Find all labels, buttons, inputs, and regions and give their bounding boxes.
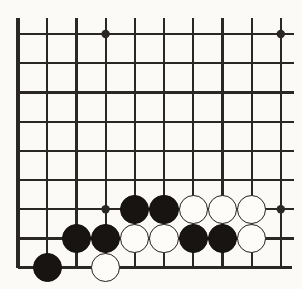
star-point [277,30,285,38]
black-stone [120,195,149,224]
black-stone [149,195,178,224]
white-stone [149,224,178,253]
white-stone [237,195,266,224]
black-stone [208,224,237,253]
star-point [101,30,109,38]
white-stone [208,195,237,224]
go-board-diagram [0,0,302,289]
black-stone [179,224,208,253]
black-stone [33,253,62,282]
star-point [101,205,109,213]
board-surface [0,0,302,289]
white-stone [237,224,266,253]
black-stone [91,224,120,253]
star-point [277,205,285,213]
black-stone [62,224,91,253]
white-stone [179,195,208,224]
